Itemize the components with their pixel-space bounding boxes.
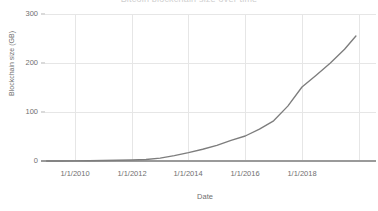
y-tick-marks bbox=[41, 14, 45, 112]
data-series-line bbox=[47, 36, 356, 161]
horizontal-gridlines bbox=[45, 14, 376, 112]
chart-container: Bitcoin blockchain size over time Blockc… bbox=[0, 0, 378, 211]
vertical-gridlines bbox=[75, 14, 359, 161]
plot-area bbox=[0, 0, 378, 211]
